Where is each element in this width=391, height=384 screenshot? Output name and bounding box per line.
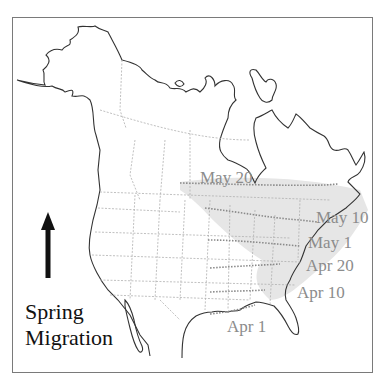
isochron-label-apr-20: Apr 20 [306, 257, 354, 274]
isochron-apr-10 [210, 290, 265, 292]
coastline-baja [125, 300, 143, 352]
north-arrow-icon [41, 212, 55, 278]
isochron-apr-1 [210, 305, 255, 314]
isochron-label-may-10: May 10 [316, 209, 368, 226]
coastline-arctic-islands [175, 69, 276, 102]
title-line-spring: Spring [25, 299, 113, 325]
isochron-label-may-20: May 20 [200, 169, 252, 186]
title-line-migration: Migration [25, 325, 113, 351]
isochron-label-may-1: May 1 [308, 234, 352, 251]
isochron-label-apr-1: Apr 1 [227, 318, 266, 335]
isochron-label-apr-10: Apr 10 [297, 284, 345, 301]
map-title: Spring Migration [25, 299, 113, 351]
